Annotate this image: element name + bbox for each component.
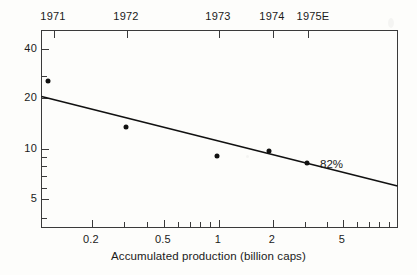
- year-tick-1975e: [308, 31, 309, 38]
- y-tick-minor-7: [42, 176, 47, 177]
- x-tick-label-1: 1: [215, 233, 221, 245]
- x-axis-title: Accumulated production (billion caps): [0, 250, 417, 262]
- y-tick-5: [42, 199, 49, 200]
- year-tick-1974: [273, 31, 274, 38]
- data-point-1974: [267, 149, 272, 154]
- scan-speckle: [246, 155, 249, 158]
- scan-speckle: [388, 18, 394, 28]
- x-tick-minor-4: [327, 222, 328, 227]
- year-tick-label-1971: 1971: [40, 10, 65, 22]
- y-tick-minor-30: [42, 76, 47, 77]
- year-tick-1971: [54, 31, 55, 38]
- year-tick-label-1975e: 1975E: [297, 10, 330, 22]
- y-tick-minor-6: [42, 188, 47, 189]
- y-tick-minor-4: [42, 218, 47, 219]
- x-tick-label-2: 2: [269, 233, 275, 245]
- x-tick-2: [273, 220, 274, 227]
- y-tick-minor-8: [42, 166, 47, 167]
- x-tick-minor-3: [305, 222, 306, 227]
- y-tick-label-10: 10: [24, 142, 37, 154]
- y-tick-label-20: 20: [24, 91, 37, 103]
- year-tick-label-1972: 1972: [113, 10, 138, 22]
- data-point-1972: [124, 125, 129, 130]
- x-tick-minor-8: [379, 222, 380, 227]
- x-tick-minor-7: [369, 222, 370, 227]
- y-tick-label-40: 40: [24, 42, 37, 54]
- y-tick-minor-9: [42, 157, 47, 158]
- year-tick-label-1973: 1973: [205, 10, 230, 22]
- plot-area: [41, 30, 398, 228]
- x-tick-5: [343, 220, 344, 227]
- x-tick-label-0-2: 0.2: [83, 233, 99, 245]
- x-tick-minor-0-9: [210, 222, 211, 227]
- x-tick-0-2: [92, 220, 93, 227]
- x-tick-minor-0-6: [178, 222, 179, 227]
- year-tick-label-1974: 1974: [259, 10, 284, 22]
- x-tick-0-5: [164, 220, 165, 227]
- x-tick-label-5: 5: [339, 233, 345, 245]
- x-tick-minor-9: [389, 222, 390, 227]
- data-point-1975e: [305, 161, 310, 166]
- x-tick-1: [219, 220, 220, 227]
- data-point-1973: [215, 154, 220, 159]
- x-tick-label-0-5: 0.5: [155, 233, 171, 245]
- year-tick-1973: [219, 31, 220, 38]
- x-tick-minor-0-8: [200, 222, 201, 227]
- year-tick-1972: [127, 31, 128, 38]
- y-tick-20: [42, 98, 49, 99]
- data-point-1971: [46, 79, 51, 84]
- x-tick-minor-0-3: [124, 222, 125, 227]
- slope-annotation-label: 82%: [320, 158, 343, 170]
- x-tick-minor-0-4: [147, 222, 148, 227]
- y-axis-labels: 40 20 10 5: [0, 0, 37, 275]
- y-tick-10: [42, 149, 49, 150]
- y-tick-40: [42, 49, 49, 50]
- y-tick-label-5: 5: [31, 192, 37, 204]
- experience-curve-chart: 1971 1972 1973 1974 1975E 40 20 10 5 0.2…: [0, 0, 417, 275]
- x-tick-minor-0-7: [190, 222, 191, 227]
- x-tick-minor-6: [357, 222, 358, 227]
